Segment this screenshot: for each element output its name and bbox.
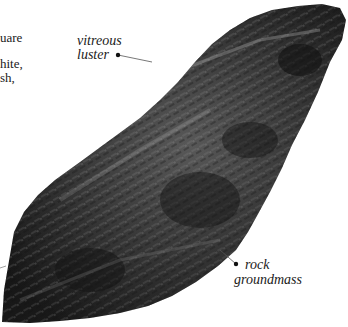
vitreous-luster-label-line1: vitreous <box>77 34 122 48</box>
rock-groundmass-label-line1: rock <box>245 258 269 272</box>
offscreen-leader-line <box>0 266 6 268</box>
body-text-fragment: hite, <box>0 57 23 71</box>
specimen-illustration: uare hite, sh, vitreous luster rock grou… <box>0 0 348 327</box>
vitreous-luster-label-line2: luster <box>77 48 109 62</box>
rock-groundmass-dot <box>234 262 238 266</box>
body-text-fragment: uare <box>0 31 22 45</box>
vitreous-luster-leader-line <box>118 55 152 62</box>
body-text-fragment: sh, <box>0 71 15 85</box>
vitreous-luster-dot <box>116 53 120 57</box>
rock-groundmass-label-line2: groundmass <box>234 273 302 287</box>
